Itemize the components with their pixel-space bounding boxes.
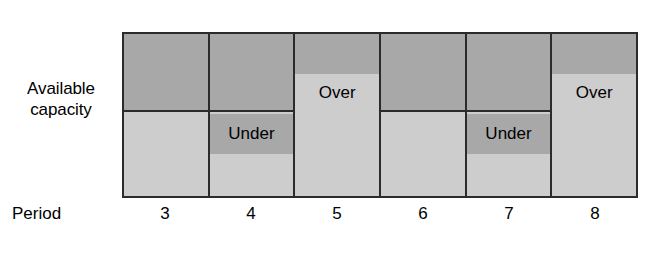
under-label: Under (210, 124, 294, 144)
available-capacity-band (467, 34, 551, 112)
capacity-grid: Under Over Under Over (122, 32, 638, 198)
under-label: Under (467, 124, 551, 144)
over-label: Over (552, 83, 636, 103)
available-capacity-band (210, 34, 294, 112)
capacity-load-diagram: Available capacity Under Over Under (0, 0, 668, 262)
x-tick-7: 7 (466, 204, 552, 226)
period-column-7: Under (467, 34, 553, 196)
available-capacity-band (124, 34, 208, 112)
period-column-5: Over (295, 34, 381, 196)
x-tick-3: 3 (122, 204, 208, 226)
x-tick-8: 8 (552, 204, 638, 226)
y-axis-label: Available capacity (8, 78, 114, 120)
available-capacity-band (381, 34, 465, 112)
over-label: Over (295, 83, 379, 103)
y-axis-label-line-2: capacity (8, 99, 114, 120)
period-column-3 (124, 34, 210, 196)
period-column-4: Under (210, 34, 296, 196)
x-tick-6: 6 (380, 204, 466, 226)
x-axis-tick-labels: 3 4 5 6 7 8 (122, 204, 638, 226)
x-tick-4: 4 (208, 204, 294, 226)
y-axis-label-line-1: Available (8, 78, 114, 99)
period-column-8: Over (552, 34, 636, 196)
x-axis-label: Period (12, 204, 112, 224)
period-column-6 (381, 34, 467, 196)
x-tick-5: 5 (294, 204, 380, 226)
